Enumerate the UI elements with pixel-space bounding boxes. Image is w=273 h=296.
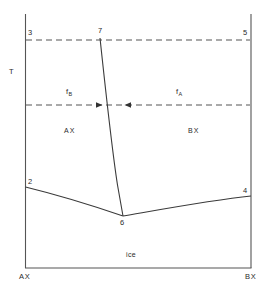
boundary-line-7-6 [100, 38, 123, 216]
phase-diagram-figure: T 3 7 5 2 4 6 fB fA AX BX ice AX BX [0, 0, 273, 296]
point-label-7: 7 [98, 27, 102, 35]
flux-label-b-subscript: B [68, 91, 72, 97]
phase-diagram-canvas [0, 0, 273, 296]
flux-label-a-subscript: A [178, 91, 182, 97]
region-label-ax: AX [64, 127, 75, 134]
liquidus-curve-left [26, 187, 124, 216]
flux-arrow-left-icon [125, 102, 132, 108]
x-axis-label-left: AX [19, 273, 31, 281]
flux-label-a: fA [176, 88, 182, 96]
flux-arrow-right-icon [96, 102, 103, 108]
y-axis-label: T [9, 68, 14, 76]
point-label-4: 4 [243, 187, 247, 195]
flux-label-b: fB [66, 88, 72, 96]
point-label-5: 5 [243, 29, 247, 37]
region-label-bx: BX [188, 127, 199, 134]
point-label-2: 2 [28, 178, 32, 186]
x-axis-label-right: BX [245, 273, 257, 281]
liquidus-curve-right [123, 196, 251, 216]
region-label-ice: ice [126, 251, 136, 258]
point-label-3: 3 [28, 29, 32, 37]
point-label-6: 6 [120, 219, 124, 227]
